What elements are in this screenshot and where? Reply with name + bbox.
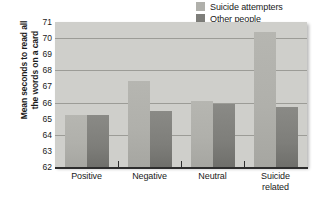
y-axis-tick-label: 70 (43, 34, 52, 43)
y-axis-tick-label: 64 (43, 130, 52, 139)
x-axis-tick-mark (181, 161, 182, 167)
x-axis-tick-label-line: Negative (118, 171, 181, 182)
bar (128, 81, 150, 167)
legend-swatch-icon (196, 2, 205, 11)
x-axis-tick-label: Negative (118, 171, 181, 182)
bar (65, 115, 87, 167)
x-axis-tick-mark (118, 161, 119, 167)
legend-item-suicide-attempters: Suicide attempters (196, 1, 318, 12)
x-axis-tick-label-line: related (244, 182, 307, 193)
x-axis-tick-label-line: Positive (55, 171, 118, 182)
bar (150, 111, 172, 167)
plot-area (55, 22, 307, 167)
bar-chart-figure: Suicide attempters Other people Mean sec… (0, 0, 319, 203)
bar (213, 104, 235, 167)
y-axis-tick-label: 67 (43, 82, 52, 91)
y-axis-tick-label: 71 (43, 18, 52, 27)
y-axis-tick-label: 66 (43, 98, 52, 107)
x-axis-line (55, 167, 308, 169)
bar (276, 107, 298, 167)
y-axis-tick-labels: 62636465666768697071 (36, 22, 52, 167)
y-axis-title-line-1: Mean seconds to read all (19, 21, 30, 120)
x-axis-tick-label-line: Suicide (244, 171, 307, 182)
x-axis-tick-label: Neutral (181, 171, 244, 182)
y-axis-tick-label: 68 (43, 66, 52, 75)
y-axis-tick-label: 65 (43, 114, 52, 123)
x-axis-tick-label-line: Neutral (181, 171, 244, 182)
x-axis-tick-mark (244, 161, 245, 167)
y-axis-tick-label: 62 (43, 163, 52, 172)
x-axis-tick-label: Positive (55, 171, 118, 182)
bar (87, 115, 109, 167)
legend-label: Suicide attempters (210, 2, 283, 12)
bar (191, 101, 213, 167)
x-axis-tick-labels: PositiveNegativeNeutralSuiciderelated (55, 171, 307, 201)
y-axis-tick-label: 63 (43, 146, 52, 155)
x-axis-tick-label: Suiciderelated (244, 171, 307, 192)
bar (254, 32, 276, 167)
y-axis-tick-label: 69 (43, 50, 52, 59)
